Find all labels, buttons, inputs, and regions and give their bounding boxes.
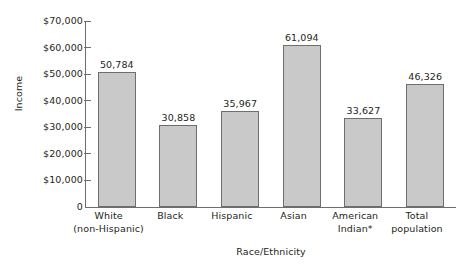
bar-group: 50,784	[86, 21, 148, 207]
bar-value-label: 35,967	[223, 98, 257, 109]
y-axis-tick: $60,000	[0, 42, 95, 54]
y-axis-tick-label: $50,000	[43, 68, 83, 80]
y-axis-tick: $30,000	[0, 121, 95, 133]
bar-group: 35,967	[209, 21, 271, 207]
category-label-line: Hispanic	[211, 210, 252, 221]
bar-group: 33,627	[333, 21, 395, 207]
x-axis-tick-labels: White(non-Hispanic)BlackHispanicAsianAme…	[86, 210, 456, 246]
y-axis-tick: $10,000	[0, 174, 95, 186]
bar	[221, 111, 259, 207]
y-axis-tick-label: $60,000	[43, 42, 83, 54]
bar	[98, 72, 136, 207]
bar	[344, 118, 382, 207]
bar	[406, 84, 444, 207]
category-label-line: White	[95, 210, 123, 221]
y-axis-tick-label: $20,000	[43, 148, 83, 160]
y-axis-tick: $70,000	[0, 15, 95, 27]
bar-value-label: 46,326	[408, 71, 442, 82]
bar-value-label: 33,627	[347, 105, 381, 116]
bar-value-label: 30,858	[162, 112, 196, 123]
x-axis-label: Race/Ethnicity	[86, 246, 456, 257]
y-axis-tick: $50,000	[0, 68, 95, 80]
category-label-line: Black	[157, 210, 183, 221]
y-axis-tick-label: $10,000	[43, 174, 83, 186]
bar-group: 46,326	[394, 21, 456, 207]
y-axis-tick: $40,000	[0, 95, 95, 107]
bar-value-label: 61,094	[285, 32, 319, 43]
y-axis-tick-label: $40,000	[43, 95, 83, 107]
category-label-line: population	[378, 223, 456, 236]
bar-group: 30,858	[148, 21, 210, 207]
plot-area: 50,78430,85835,96761,09433,62746,326	[86, 21, 456, 207]
x-axis-line	[85, 207, 456, 208]
y-axis-tick-label: $30,000	[43, 121, 83, 133]
category-label-line: (non-Hispanic)	[70, 223, 148, 236]
x-axis-category-label: Totalpopulation	[378, 210, 456, 235]
y-axis-tick: $20,000	[0, 148, 95, 160]
category-label-line: American	[332, 210, 378, 221]
category-label-line: Asian	[280, 210, 306, 221]
bar-chart: Income 0$10,000$20,000$30,000$40,000$50,…	[0, 0, 466, 266]
bar-group: 61,094	[271, 21, 333, 207]
bar-value-label: 50,784	[100, 59, 134, 70]
bar	[283, 45, 321, 207]
bar	[159, 125, 197, 207]
category-label-line: Total	[406, 210, 429, 221]
y-axis-tick-label: $70,000	[43, 15, 83, 27]
